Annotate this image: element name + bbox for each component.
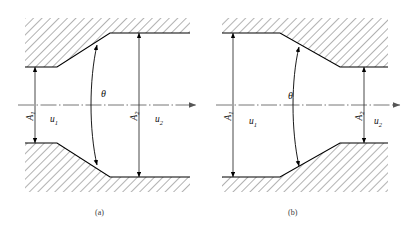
panel-b: A1 u1 A2 u2 θ (216, 18, 400, 192)
panel-a-label-theta: θ (101, 88, 106, 99)
duct-flow-diagram-svg: A1 u1 A2 u2 θ (0, 0, 410, 235)
panel-b-upper-wall-material (222, 18, 388, 67)
panel-b-label-u1: u1 (249, 116, 257, 128)
panel-b-label-A2: A2 (354, 111, 365, 122)
panel-b-label-theta: θ (288, 90, 293, 101)
panel-b-angle-arc (293, 47, 299, 166)
panel-a-lower-wall-material (25, 143, 190, 192)
panel-b-label-A1: A1 (223, 111, 234, 121)
panel-b-lower-wall-material (222, 143, 388, 192)
panel-b-caption: (b) (288, 208, 297, 217)
panel-a-label-u2: u2 (155, 114, 164, 126)
panel-b-label-u2: u2 (374, 116, 383, 128)
panel-a-label-A2: A2 (129, 111, 140, 122)
panel-a-label-u1: u1 (50, 114, 58, 126)
panel-a-caption: (a) (95, 208, 104, 217)
panel-a-upper-wall-material (25, 18, 190, 67)
panel-a: A1 u1 A2 u2 θ (18, 18, 196, 192)
panel-a-label-A1: A1 (25, 111, 36, 121)
figure-root: A1 u1 A2 u2 θ (0, 0, 410, 235)
